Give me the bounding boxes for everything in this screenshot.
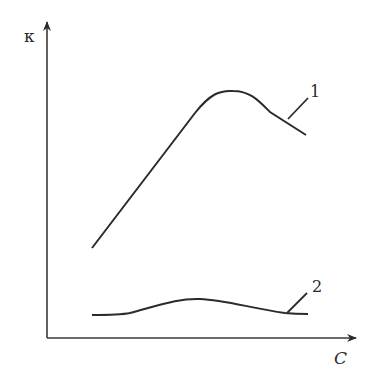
curve-2 [92,299,308,315]
x-axis-label: C [334,348,347,368]
curve-1-label: 1 [310,82,320,101]
curve-1-leader [288,98,308,119]
chart: κ C 1 2 [0,0,371,377]
curve-1 [92,91,306,248]
curve-2-label: 2 [312,277,322,296]
y-axis-label: κ [24,26,35,46]
curve-2-leader [287,293,307,313]
